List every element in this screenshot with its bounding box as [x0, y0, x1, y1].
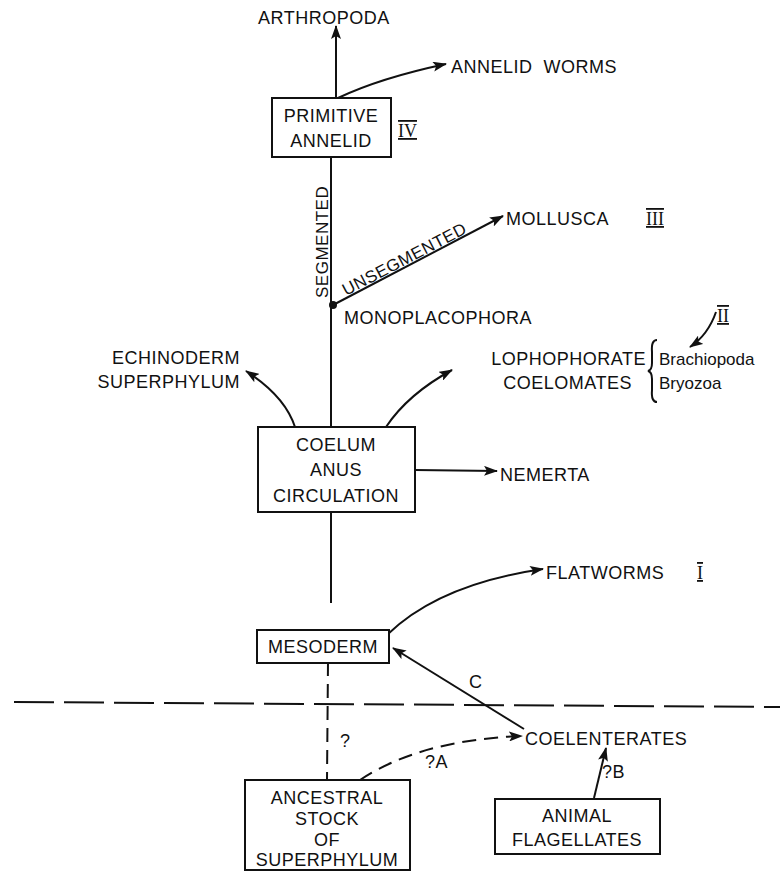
arthropoda-label: ARTHROPODA	[258, 8, 390, 28]
monoplacophora-label: MONOPLACOPHORA	[344, 308, 532, 328]
unsegmented-label: UNSEGMENTED	[339, 219, 470, 299]
lophophorate-line2: COELOMATES	[503, 373, 632, 393]
coelum-line2: ANUS	[310, 460, 362, 480]
mesoderm-label: MESODERM	[268, 637, 378, 657]
echinoderm-line2: SUPERPHYLUM	[97, 372, 240, 392]
numeral-ii: II	[717, 306, 729, 326]
flagellates-line2: FLAGELLATES	[512, 830, 642, 850]
phylogeny-diagram: ARTHROPODA ANNELID WORMS PRIMITIVE ANNEL…	[0, 0, 782, 880]
divider-dashed-line	[14, 702, 780, 707]
annelid-worms-label: ANNELID WORMS	[451, 57, 617, 77]
question-label: ?	[340, 731, 351, 751]
brachiopoda-label: Brachiopoda	[659, 350, 755, 369]
edge-to-echinoderm	[246, 371, 295, 427]
edge-to-lophophorate	[386, 370, 452, 427]
edge-ii-pointer	[690, 312, 716, 347]
c-label: C	[469, 672, 483, 692]
edge-to-nemerta	[415, 470, 497, 471]
edge-c-coelenterates-to-mesoderm	[393, 648, 524, 729]
ancestral-line1: ANCESTRAL	[271, 788, 384, 808]
lophophorate-brace	[648, 340, 657, 402]
coelum-line3: CIRCULATION	[273, 486, 399, 506]
nemerta-label: NEMERTA	[500, 465, 590, 485]
echinoderm-line1: ECHINODERM	[112, 348, 240, 368]
flatworms-label: FLATWORMS	[546, 563, 664, 583]
ancestral-line3: OF	[314, 830, 340, 850]
edge-to-annelid-worms	[338, 64, 446, 98]
segmented-label: SEGMENTED	[313, 186, 332, 298]
lophophorate-line1: LOPHOPHORATE	[491, 349, 646, 369]
numeral-iv: IV	[398, 121, 417, 141]
qb-label: ?B	[602, 762, 625, 782]
numeral-i: I	[697, 563, 703, 583]
edge-q-ancestral-to-mesoderm	[327, 662, 328, 780]
coelenterates-label: COELENTERATES	[525, 729, 687, 749]
ancestral-line4: SUPERPHYLUM	[256, 850, 399, 870]
primitive-annelid-line1: PRIMITIVE	[284, 106, 379, 126]
ancestral-line2: STOCK	[295, 809, 359, 829]
primitive-annelid-line2: ANNELID	[290, 131, 372, 151]
mollusca-label: MOLLUSCA	[506, 209, 609, 229]
flagellates-line1: ANIMAL	[542, 806, 612, 826]
coelum-line1: COELUM	[296, 435, 376, 455]
edge-to-flatworms	[388, 569, 543, 634]
qa-label: ?A	[425, 752, 448, 772]
bryozoa-label: Bryozoa	[659, 374, 722, 393]
numeral-iii: III	[646, 209, 664, 229]
